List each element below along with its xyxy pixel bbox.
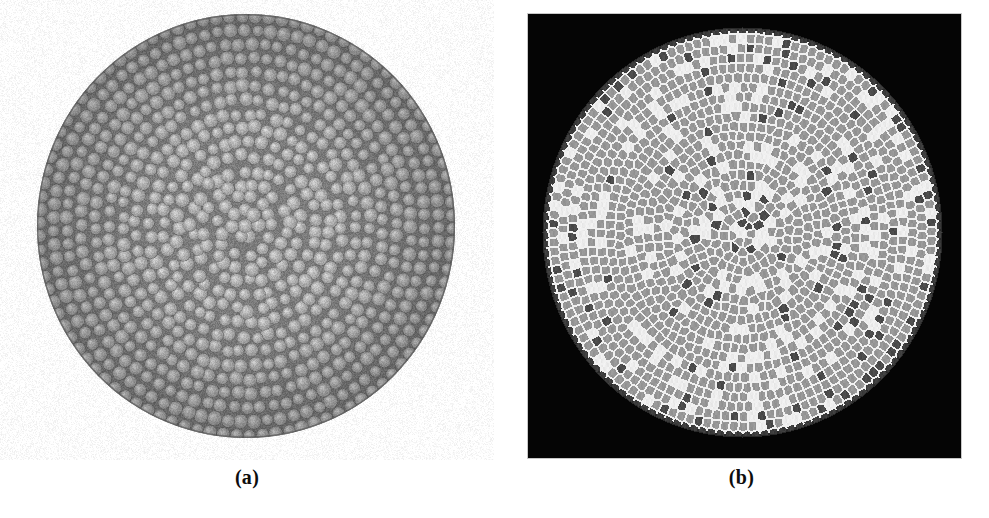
disc-packing-photograph (0, 0, 494, 460)
panel-b-caption: (b) (494, 466, 989, 489)
voronoi-plate (527, 13, 962, 459)
figure-root: (a) (b) (0, 0, 989, 518)
panel-a: (a) (0, 0, 494, 460)
voronoi-tessellation-image (528, 14, 962, 459)
panel-a-caption: (a) (0, 466, 494, 489)
panel-b: (b) (494, 0, 989, 460)
